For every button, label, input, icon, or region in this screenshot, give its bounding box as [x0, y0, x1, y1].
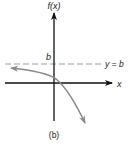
- graph-figure: f(x) x b y = b (b): [0, 0, 133, 145]
- asymptote-value-label: b: [46, 52, 51, 62]
- figure-caption: (b): [49, 130, 60, 140]
- function-curve: [11, 68, 85, 123]
- y-axis-label: f(x): [48, 1, 61, 11]
- asymptote-equation: y = b: [104, 59, 124, 69]
- x-axis-label: x: [116, 79, 122, 89]
